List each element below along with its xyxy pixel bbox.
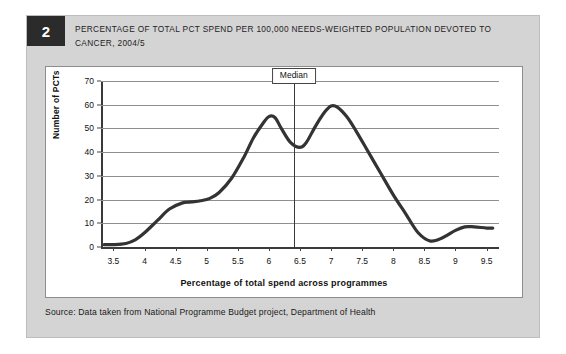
x-tick-mark (487, 247, 488, 251)
x-tick-mark (207, 247, 208, 251)
x-tick-label: 9 (453, 256, 458, 266)
x-tick-label: 3.5 (108, 256, 120, 266)
plot-area: 010203040506070 3.544.555.566.577.588.59… (101, 81, 499, 247)
chart-panel: Number of PCTs Percentage of total spend… (45, 66, 523, 298)
x-tick-mark (269, 247, 270, 251)
x-tick-label: 8 (391, 256, 396, 266)
x-tick-label: 7 (329, 256, 334, 266)
x-tick-mark (362, 247, 363, 251)
x-tick-mark (455, 247, 456, 251)
x-tick-mark (113, 247, 114, 251)
x-tick-label: 4.5 (170, 256, 182, 266)
data-curve (101, 81, 499, 247)
x-tick-label: 9.5 (481, 256, 493, 266)
x-tick-mark (393, 247, 394, 251)
x-axis-label: Percentage of total spend across program… (46, 278, 522, 288)
x-tick-mark (424, 247, 425, 251)
x-tick-mark (300, 247, 301, 251)
figure-title: PERCENTAGE OF TOTAL PCT SPEND PER 100,00… (75, 23, 527, 50)
x-tick-label: 5.5 (232, 256, 244, 266)
median-line (294, 75, 295, 247)
y-axis-label: Number of PCTs (51, 70, 61, 139)
figure-source: Source: Data taken from National Program… (45, 307, 375, 317)
x-tick-mark (145, 247, 146, 251)
figure-container: 2 PERCENTAGE OF TOTAL PCT SPEND PER 100,… (26, 15, 540, 338)
figure-header: 2 PERCENTAGE OF TOTAL PCT SPEND PER 100,… (27, 16, 539, 69)
x-tick-label: 4 (142, 256, 147, 266)
median-label: Median (272, 68, 316, 84)
x-tick-label: 5 (204, 256, 209, 266)
x-tick-label: 6 (267, 256, 272, 266)
x-tick-mark (331, 247, 332, 251)
x-tick-label: 6.5 (294, 256, 306, 266)
x-tick-mark (176, 247, 177, 251)
x-tick-label: 8.5 (418, 256, 430, 266)
x-tick-label: 7.5 (356, 256, 368, 266)
figure-number-badge: 2 (27, 16, 65, 46)
x-tick-mark (238, 247, 239, 251)
